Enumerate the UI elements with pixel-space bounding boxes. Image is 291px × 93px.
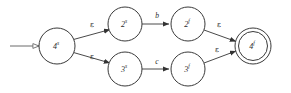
edge-label-c: c [155, 57, 159, 66]
state-node-accept[interactable]: 4f [235, 28, 271, 64]
edge-label-start-to-top-left: ε [90, 20, 94, 29]
edge-label-top-right-to-accept: ε [217, 20, 221, 29]
state-label-top-left-sup: s [125, 18, 127, 24]
edge-label-bottom-right-to-accept: ε [215, 45, 219, 54]
state-label-start-sup: s [57, 40, 59, 46]
state-label-bottom-left-sup: s [125, 63, 127, 69]
edge-bottom-right-to-accept [204, 51, 236, 63]
edge-label-b: b [155, 11, 159, 20]
edge-start-to-top-left [74, 30, 111, 40]
state-node-start[interactable]: 4s [39, 28, 75, 64]
automaton-diagram: ε ε b c ε ε 4s 2s 3s 2f 3f [0, 0, 291, 93]
state-node-top-left[interactable]: 2s [108, 7, 142, 41]
state-node-top-right[interactable]: 2f [171, 7, 205, 41]
edge-label-start-to-bottom-left: ε [90, 52, 94, 61]
state-node-bottom-right[interactable]: 3f [171, 52, 205, 86]
edge-top-right-to-accept [204, 30, 236, 42]
automaton-canvas: ε ε b c ε ε 4s 2s 3s 2f 3f [0, 0, 291, 93]
state-node-bottom-left[interactable]: 3s [108, 52, 142, 86]
